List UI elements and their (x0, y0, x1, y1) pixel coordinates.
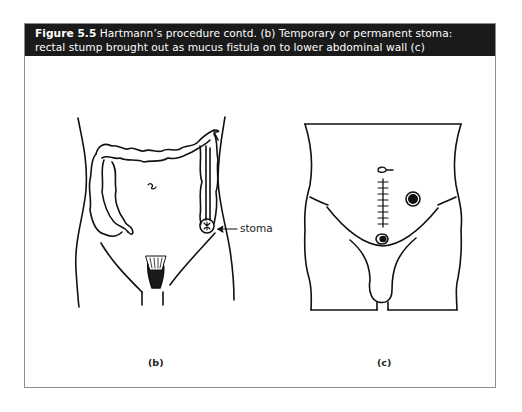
groin-right (170, 233, 215, 285)
descending-colon (214, 134, 218, 224)
groin-left (101, 243, 142, 292)
body-outline-left (76, 118, 87, 307)
stoma-label: stoma (240, 222, 273, 234)
umbilicus-b (148, 184, 156, 189)
genitalia (350, 238, 416, 303)
trunk-right (454, 124, 461, 310)
umbilicus-c (378, 167, 393, 172)
panel-b-illustration (76, 117, 237, 307)
body-outline-right (218, 117, 234, 300)
panel-c-label: (c) (377, 357, 391, 368)
panel-c-illustration (305, 124, 462, 310)
trunk-left (305, 124, 312, 310)
panel-b-label: (b) (148, 357, 163, 368)
illustrations (0, 0, 522, 412)
